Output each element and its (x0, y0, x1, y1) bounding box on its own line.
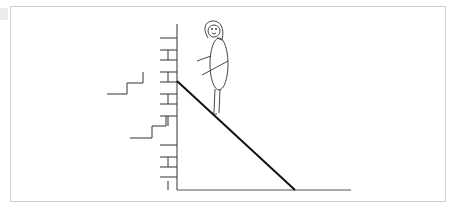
inclined-ramp (177, 81, 295, 190)
diagram-canvas (0, 0, 451, 212)
girl-figure (197, 21, 228, 114)
brick-wall (160, 24, 177, 190)
step-shapes (107, 72, 166, 138)
